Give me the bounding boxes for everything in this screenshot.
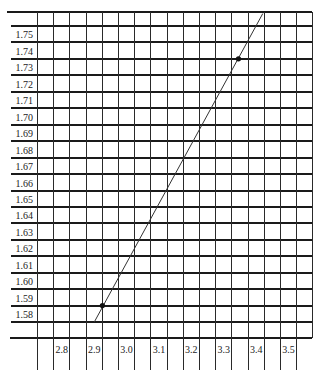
y-tick-label: 1.67 [16,161,34,172]
x-tick-label: 3.1 [153,344,166,355]
x-tick-label: 2.8 [56,344,69,355]
x-tick-label: 3.0 [120,344,133,355]
y-tick-label: 1.61 [16,260,34,271]
y-tick-label: 1.70 [16,112,34,123]
y-tick-label: 1.75 [16,29,34,40]
graph-paper-chart: 1.751.741.731.721.711.701.691.681.671.66… [0,0,322,380]
data-point [236,56,241,61]
y-tick-label: 1.73 [16,62,34,73]
y-tick-label: 1.60 [16,276,34,287]
x-tick-label: 3.2 [185,344,198,355]
grid [7,12,312,370]
y-tick-label: 1.63 [16,227,34,238]
x-tick-label: 3.3 [218,344,231,355]
y-tick-label: 1.65 [16,194,34,205]
x-tick-label: 2.9 [88,344,101,355]
plot-series [94,14,262,322]
y-tick-label: 1.71 [16,95,34,106]
y-tick-label: 1.59 [16,293,34,304]
y-axis-tick-labels: 1.751.741.731.721.711.701.691.681.671.66… [16,29,34,320]
x-axis-tick-labels: 2.82.93.03.13.23.33.43.5 [56,344,295,355]
y-tick-label: 1.72 [16,79,34,90]
y-tick-label: 1.62 [16,243,34,254]
x-tick-label: 3.4 [250,344,263,355]
y-tick-label: 1.66 [16,178,34,189]
x-tick-label: 3.5 [282,344,295,355]
y-tick-label: 1.64 [16,210,34,221]
y-tick-label: 1.69 [16,128,34,139]
y-tick-label: 1.74 [16,46,34,57]
data-point [100,303,105,308]
y-tick-label: 1.68 [16,145,34,156]
y-tick-label: 1.58 [16,309,34,320]
